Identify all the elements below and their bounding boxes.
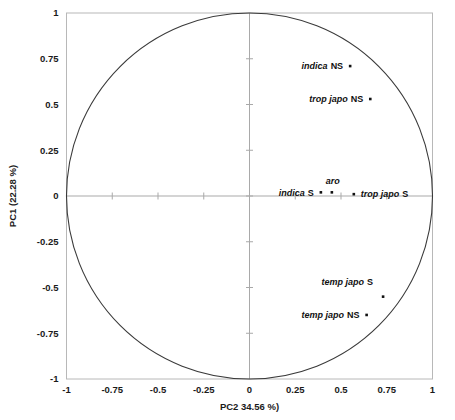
x-axis-tick-labels: -1-0.75-0.5-0.2500.250.50.751 bbox=[62, 384, 436, 395]
data-point-label: indicaS bbox=[279, 188, 314, 198]
data-point-label: temp japoS bbox=[322, 277, 374, 287]
y-tick-label: -0.75 bbox=[37, 328, 59, 339]
x-tick-label: -0.75 bbox=[101, 384, 123, 395]
x-tick-label: -0.5 bbox=[150, 384, 167, 395]
data-point bbox=[349, 65, 352, 68]
y-tick-label: 0 bbox=[53, 190, 58, 201]
x-tick-label: 0 bbox=[247, 384, 252, 395]
x-tick-label: 0.25 bbox=[286, 384, 305, 395]
x-tick-label: 0.5 bbox=[334, 384, 348, 395]
x-tick-label: -0.25 bbox=[193, 384, 215, 395]
data-point bbox=[369, 98, 372, 101]
x-tick-label: 1 bbox=[430, 384, 436, 395]
x-axis-title: PC2 34.56 %) bbox=[220, 401, 279, 412]
data-point bbox=[320, 191, 323, 194]
data-point bbox=[353, 193, 356, 196]
y-tick-label: -0.5 bbox=[42, 282, 59, 293]
data-point-label: indicaNS bbox=[302, 61, 344, 71]
y-tick-label: -0.25 bbox=[37, 236, 59, 247]
data-point-labels: indicaNStrop japoNSindicaSarotrop japoSt… bbox=[279, 61, 408, 320]
data-point bbox=[382, 295, 385, 298]
x-tick-label: -1 bbox=[62, 384, 71, 395]
data-point bbox=[365, 314, 368, 317]
y-tick-label: 0.25 bbox=[40, 145, 59, 156]
data-point bbox=[331, 191, 334, 194]
data-point-label: temp japoNS bbox=[302, 310, 360, 320]
y-tick-label: 0.75 bbox=[40, 53, 59, 64]
y-tick-label: 0.5 bbox=[45, 99, 59, 110]
data-point-label: trop japoS bbox=[361, 189, 409, 199]
pca-correlation-circle-chart: -1-0.75-0.5-0.2500.250.50.751 -1-0.75-0.… bbox=[0, 0, 455, 420]
y-tick-label: 1 bbox=[53, 7, 59, 18]
data-point-label: aro bbox=[326, 176, 341, 186]
x-tick-label: 0.75 bbox=[378, 384, 397, 395]
y-axis-tick-labels: -1-0.75-0.5-0.2500.250.50.751 bbox=[37, 7, 59, 384]
y-axis-title: PC1 (22.28 %) bbox=[7, 165, 18, 227]
data-point-label: trop japoNS bbox=[309, 94, 363, 104]
y-tick-label: -1 bbox=[50, 373, 59, 384]
chart-canvas: -1-0.75-0.5-0.2500.250.50.751 -1-0.75-0.… bbox=[0, 0, 455, 420]
